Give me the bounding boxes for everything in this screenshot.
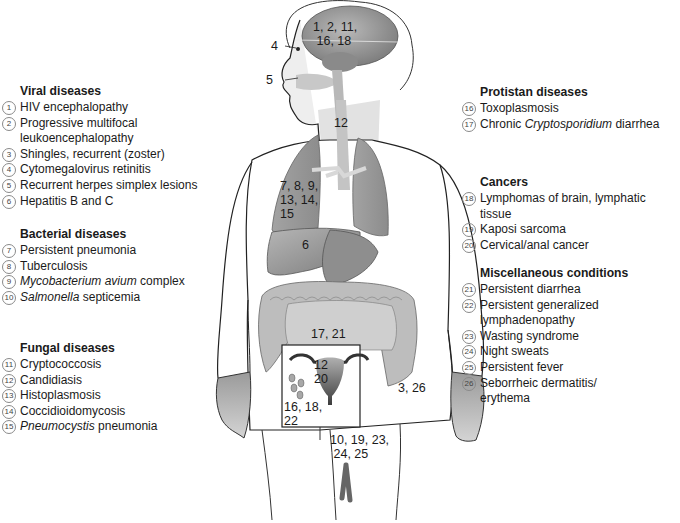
number-badge: 4 — [2, 163, 16, 177]
legend-cancers: Cancers 18Lymphomas of brain, lymphatic … — [462, 175, 680, 253]
legend-item: 22Persistent generalizedlymphadenopathy — [462, 298, 680, 329]
legend-item: 9Mycobacterium avium complex — [2, 274, 242, 290]
oral-cavity — [296, 74, 338, 90]
legend-misc: Miscellaneous conditions 21Persistent di… — [462, 266, 680, 407]
label-lymph-nodes: 16, 18, 22 — [284, 400, 322, 428]
right-leg — [396, 424, 401, 520]
number-badge: 7 — [2, 244, 16, 258]
number-badge: 22 — [462, 299, 476, 313]
cerebellum — [322, 52, 358, 72]
legend-item: 23Wasting syndrome — [462, 329, 680, 345]
legend-item: 14Coccidioidomycosis — [2, 404, 242, 420]
label-mouth: 5 — [266, 73, 273, 87]
number-badge: 3 — [2, 148, 16, 162]
number-badge: 11 — [2, 358, 16, 372]
number-badge: 25 — [462, 361, 476, 375]
legend-item: 20Cervical/anal cancer — [462, 238, 680, 254]
number-badge: 10 — [2, 291, 16, 305]
number-badge: 8 — [2, 260, 16, 274]
legend-item: 4Cytomegalovirus retinitis — [2, 162, 242, 178]
label-lungs: 7, 8, 9, 13, 14, 15 — [280, 179, 318, 221]
label-eye: 4 — [271, 39, 278, 53]
legend-item: 26Seborrheic dermatitis/erythema — [462, 376, 680, 407]
number-badge: 2 — [2, 117, 16, 131]
number-badge: 15 — [2, 420, 16, 434]
legend-item: 1HIV encephalopathy — [2, 100, 242, 116]
number-badge: 26 — [462, 377, 476, 391]
label-esophagus: 12 — [334, 116, 348, 130]
number-badge: 17 — [462, 118, 476, 132]
legend-fungal: Fungal diseases 11Cryptococcosis 12Candi… — [2, 341, 242, 435]
legend-item: 13Histoplasmosis — [2, 388, 242, 404]
legend-bacterial: Bacterial diseases 7Persistent pneumonia… — [2, 227, 242, 305]
number-badge: 20 — [462, 239, 476, 253]
genital-organ — [342, 465, 350, 500]
legend-protistan: Protistan diseases 16Toxoplasmosis 17Chr… — [462, 85, 680, 132]
diagram-stage: 1, 2, 11, 16, 18 4 5 12 7, 8, 9, 13, 14,… — [0, 0, 680, 523]
legend-item: 3Shingles, recurrent (zoster) — [2, 147, 242, 163]
legend-item: 2Progressive multifocalleukoencephalopat… — [2, 116, 242, 147]
number-badge: 13 — [2, 389, 16, 403]
legend-item: 21Persistent diarrhea — [462, 282, 680, 298]
label-intestine: 17, 21 — [311, 327, 346, 341]
legend-title: Fungal diseases — [20, 341, 242, 356]
number-badge: 6 — [2, 195, 16, 209]
legend-item: 12Candidiasis — [2, 373, 242, 389]
legend-item: 8Tuberculosis — [2, 259, 242, 275]
number-badge: 24 — [462, 345, 476, 359]
legend-title: Miscellaneous conditions — [480, 266, 680, 281]
legend-item: 19Kaposi sarcoma — [462, 222, 680, 238]
legend-item: 6Hepatitis B and C — [2, 194, 242, 210]
number-badge: 14 — [2, 405, 16, 419]
legend-item: 7Persistent pneumonia — [2, 243, 242, 259]
legend-title: Cancers — [480, 175, 680, 190]
legend-item: 18Lymphomas of brain, lymphatic tissue — [462, 191, 680, 222]
legend-item: 11Cryptococcosis — [2, 357, 242, 373]
label-uterus: 12 20 — [314, 358, 328, 386]
legend-viral: Viral diseases 1HIV encephalopathy 2Prog… — [2, 84, 242, 209]
number-badge: 1 — [2, 101, 16, 115]
legend-item: 25Persistent fever — [462, 360, 680, 376]
number-badge: 23 — [462, 330, 476, 344]
left-leg — [262, 430, 272, 520]
legend-item: 10Salmonella septicemia — [2, 290, 242, 306]
legend-item: 16Toxoplasmosis — [462, 101, 680, 117]
legend-title: Viral diseases — [20, 84, 242, 99]
label-brain: 1, 2, 11, 16, 18 — [313, 20, 357, 48]
label-liver: 6 — [302, 238, 309, 252]
legend-item: 15Pneumocystis pneumonia — [2, 419, 242, 435]
legend-title: Protistan diseases — [480, 85, 680, 100]
small-intestine — [285, 301, 396, 351]
legend-title: Bacterial diseases — [20, 227, 242, 242]
number-badge: 21 — [462, 283, 476, 297]
number-badge: 12 — [2, 374, 16, 388]
number-badge: 19 — [462, 223, 476, 237]
number-badge: 16 — [462, 102, 476, 116]
legend-item: 17Chronic Cryptosporidium diarrhea — [462, 117, 680, 133]
number-badge: 9 — [2, 275, 16, 289]
label-genital: 10, 19, 23, 24, 25 — [330, 433, 389, 461]
number-badge: 18 — [462, 192, 476, 206]
legend-item: 24Night sweats — [462, 344, 680, 360]
legend-item: 5Recurrent herpes simplex lesions — [2, 178, 242, 194]
label-hand: 3, 26 — [398, 381, 426, 395]
number-badge: 5 — [2, 179, 16, 193]
